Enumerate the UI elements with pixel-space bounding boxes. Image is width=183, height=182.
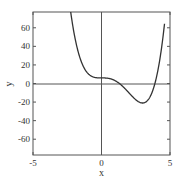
data-series-line xyxy=(69,0,165,103)
y-tick-label: 0 xyxy=(26,79,31,89)
y-tick-label: -40 xyxy=(18,116,30,126)
x-axis-label: x xyxy=(99,167,104,178)
y-tick-label: 60 xyxy=(21,23,31,33)
x-tick-label: -5 xyxy=(29,158,37,168)
x-tick-label: 5 xyxy=(168,158,173,168)
y-axis-label: y xyxy=(3,82,14,87)
y-tick-label: -20 xyxy=(18,97,30,107)
y-tick-label: 20 xyxy=(21,60,31,70)
y-tick-label: 40 xyxy=(21,41,31,51)
y-tick-label: -60 xyxy=(18,134,30,144)
chart-canvas: -60-40-200204060 -505 x y xyxy=(0,0,183,182)
